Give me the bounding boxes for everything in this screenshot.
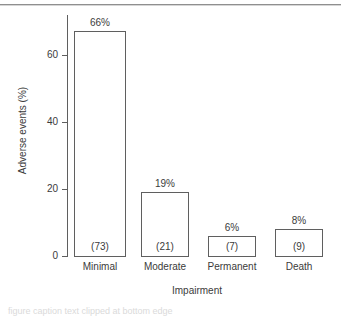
x-axis-category-label-minimal: Minimal <box>70 261 130 272</box>
bar-value-label-minimal: 66% <box>74 17 126 28</box>
y-axis-tick-label-0: 0 <box>18 251 58 261</box>
bar-value-label-permanent: 6% <box>208 222 256 233</box>
bar-value-label-death: 8% <box>275 215 323 226</box>
y-axis-line <box>67 15 68 257</box>
y-axis-tick-40 <box>62 122 68 123</box>
y-axis-tick-0 <box>62 256 68 257</box>
clipped-caption-text: figure caption text clipped at bottom ed… <box>8 307 173 316</box>
bar-chart-plot-area: 0 20 40 60 Adverse events (%) 66% 19% 6%… <box>0 0 341 316</box>
x-axis-category-label-death: Death <box>269 261 329 272</box>
x-axis-category-label-moderate: Moderate <box>135 261 195 272</box>
bar-minimal <box>74 31 126 257</box>
x-axis-title: Impairment <box>67 285 327 296</box>
bar-value-label-moderate: 19% <box>141 178 189 189</box>
bar-count-label-permanent: (7) <box>208 241 256 252</box>
clipped-caption: figure caption text clipped at bottom ed… <box>0 307 341 316</box>
figure-container: 0 20 40 60 Adverse events (%) 66% 19% 6%… <box>0 0 341 316</box>
bar-count-label-death: (9) <box>275 241 323 252</box>
bar-count-label-moderate: (21) <box>141 241 189 252</box>
y-axis-tick-60 <box>62 55 68 56</box>
bar-count-label-minimal: (73) <box>74 241 126 252</box>
y-axis-tick-20 <box>62 189 68 190</box>
x-axis-category-label-permanent: Permanent <box>200 261 264 272</box>
y-axis-tick-label-60: 60 <box>18 50 58 60</box>
y-axis-title: Adverse events (%) <box>17 71 28 191</box>
